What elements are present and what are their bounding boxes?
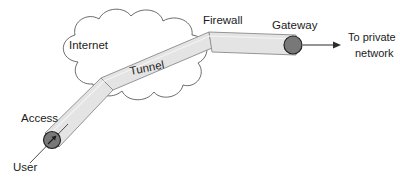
private-network-label-line2: network (355, 47, 394, 59)
gateway-label: Gateway (272, 19, 318, 31)
firewall-label: Firewall (203, 14, 243, 26)
gateway-circle (284, 36, 302, 54)
user-label: User (13, 161, 37, 173)
access-point-node (44, 132, 61, 149)
vpn-tunnel-diagram: Internet Tunnel Firewall Gateway Access … (0, 0, 400, 179)
private-network-label-line1: To private (348, 31, 396, 43)
diagram-canvas: Internet Tunnel Firewall Gateway Access … (0, 0, 400, 179)
tunnel-segment-horizontal (209, 32, 296, 55)
access-label: Access (21, 112, 58, 124)
gateway-node (284, 36, 302, 54)
private-network-arrow (303, 42, 341, 49)
internet-label: Internet (69, 39, 109, 51)
private-network-arrowhead-icon (333, 42, 341, 49)
